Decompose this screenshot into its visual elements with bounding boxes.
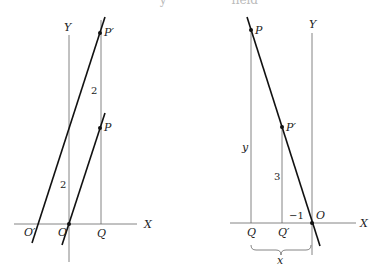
left-x-label: X	[143, 218, 153, 231]
right-x-label: X	[359, 217, 369, 230]
left-shift-lower-label: 2	[60, 179, 66, 190]
left-diagram: X Y O O′ Q P P′ 2 2	[14, 17, 153, 262]
coordinate-diagrams: · · · · · · y · · · · · · · · field X Y …	[0, 0, 372, 270]
left-p-prime-dot	[98, 31, 102, 35]
right-origin-dot	[310, 221, 314, 225]
right-y-label: Y	[309, 18, 318, 31]
left-y-label: Y	[64, 21, 73, 34]
right-p-prime-dot	[280, 125, 284, 129]
right-minus-one-label: −1	[289, 210, 304, 221]
right-diagram: X Y O Q Q′ P P′ y 3 −1 x	[230, 17, 369, 267]
left-shifted-line	[32, 17, 105, 243]
right-line	[247, 17, 320, 246]
left-o-label: O	[58, 226, 67, 239]
clipped-header-text: · · · · · · y · · · · · · · · field	[114, 0, 258, 7]
right-q-label: Q	[247, 226, 256, 239]
left-p-label: P	[103, 121, 112, 134]
left-origin-dot	[67, 222, 71, 226]
right-o-label: O	[316, 209, 325, 222]
right-p-label: P	[254, 24, 263, 37]
left-shift-upper-label: 2	[91, 85, 97, 96]
left-p-prime-label: P′	[103, 26, 114, 39]
right-p-dot	[249, 28, 253, 32]
right-y-length-label: y	[241, 141, 249, 154]
left-q-label: Q	[97, 227, 106, 240]
right-q-prime-label: Q′	[278, 226, 290, 239]
left-o-prime-label: O′	[24, 226, 36, 239]
right-p-prime-label: P′	[285, 121, 296, 134]
left-p-dot	[98, 126, 102, 130]
right-x-brace-label: x	[277, 254, 284, 267]
right-three-label: 3	[274, 171, 280, 182]
